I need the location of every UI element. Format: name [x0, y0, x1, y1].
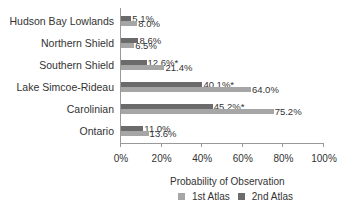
value-label: 8.0% [138, 19, 160, 28]
category-label: Lake Simcoe-Rideau [17, 81, 114, 93]
x-tick [201, 143, 202, 147]
legend-swatch-1st-atlas [178, 193, 185, 200]
bar-1st-atlas [121, 87, 251, 92]
bar-1st-atlas [121, 109, 274, 114]
value-label: 21.4% [165, 63, 192, 72]
category-label: Northern Shield [41, 37, 114, 49]
value-label: 75.2% [275, 107, 302, 116]
x-tick [323, 143, 324, 147]
x-tick [242, 143, 243, 147]
bar-1st-atlas [121, 21, 137, 26]
category-label: Southern Shield [39, 59, 114, 71]
value-label: 64.0% [252, 85, 279, 94]
x-tick [282, 143, 283, 147]
x-tick [120, 143, 121, 147]
value-label: 13.6% [150, 129, 177, 138]
y-axis-line [120, 8, 121, 143]
value-label: 6.5% [135, 41, 157, 50]
legend: 1st Atlas 2nd Atlas [178, 191, 293, 202]
x-tick-label: 40% [192, 153, 212, 164]
bar-1st-atlas [121, 65, 164, 70]
bar-chart: Probability of Observation 1st Atlas 2nd… [0, 0, 358, 211]
x-tick-label: 100% [311, 153, 337, 164]
bar-1st-atlas [121, 43, 134, 48]
category-label: Ontario [80, 125, 114, 137]
legend-swatch-2nd-atlas [238, 193, 245, 200]
x-axis-line [120, 143, 324, 144]
bar-1st-atlas [121, 131, 149, 136]
x-tick-label: 20% [152, 153, 172, 164]
x-axis-title: Probability of Observation [170, 176, 285, 187]
category-label: Carolinian [67, 103, 114, 115]
x-tick [161, 143, 162, 147]
x-tick-label: 0% [114, 153, 128, 164]
category-label: Hudson Bay Lowlands [10, 15, 114, 27]
x-tick-label: 80% [273, 153, 293, 164]
legend-label-2nd-atlas: 2nd Atlas [252, 191, 293, 202]
legend-label-1st-atlas: 1st Atlas [192, 191, 230, 202]
x-tick-label: 60% [233, 153, 253, 164]
